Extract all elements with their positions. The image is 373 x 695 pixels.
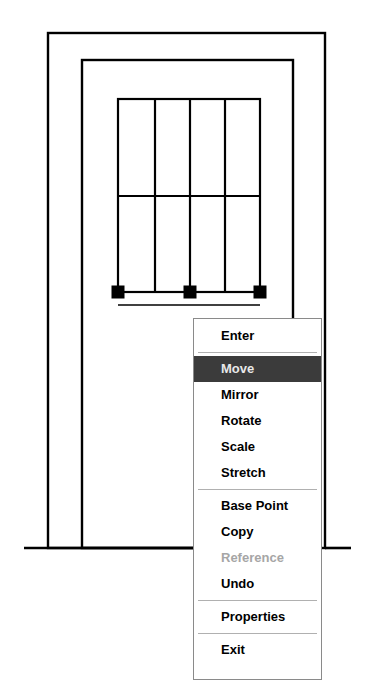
grip-left[interactable] — [112, 286, 125, 299]
menu-separator-4 — [198, 633, 317, 634]
menu-item-mirror[interactable]: Mirror — [194, 382, 321, 408]
menu-separator-3 — [198, 600, 317, 601]
screenshot-root: Enter Move Mirror Rotate Scale Stretch B… — [0, 0, 373, 695]
cad-grip-context-menu[interactable]: Enter Move Mirror Rotate Scale Stretch B… — [193, 318, 322, 680]
grip-right[interactable] — [254, 286, 267, 299]
menu-group-transform: Move Mirror Rotate Scale Stretch — [194, 356, 321, 486]
menu-bottom-padding — [194, 663, 321, 667]
grip-middle[interactable] — [184, 286, 197, 299]
menu-item-reference: Reference — [194, 545, 321, 571]
menu-item-rotate[interactable]: Rotate — [194, 408, 321, 434]
menu-item-exit[interactable]: Exit — [194, 637, 321, 663]
menu-separator-1 — [198, 352, 317, 353]
menu-item-stretch[interactable]: Stretch — [194, 460, 321, 486]
menu-item-copy[interactable]: Copy — [194, 519, 321, 545]
menu-item-scale[interactable]: Scale — [194, 434, 321, 460]
menu-group-properties: Properties — [194, 604, 321, 630]
menu-item-enter[interactable]: Enter — [194, 323, 321, 349]
menu-group-options: Base Point Copy Reference Undo — [194, 493, 321, 597]
menu-separator-2 — [198, 489, 317, 490]
menu-item-properties[interactable]: Properties — [194, 604, 321, 630]
menu-group-enter: Enter — [194, 323, 321, 349]
menu-group-exit: Exit — [194, 637, 321, 663]
menu-item-undo[interactable]: Undo — [194, 571, 321, 597]
menu-item-move[interactable]: Move — [194, 356, 321, 382]
menu-item-base-point[interactable]: Base Point — [194, 493, 321, 519]
